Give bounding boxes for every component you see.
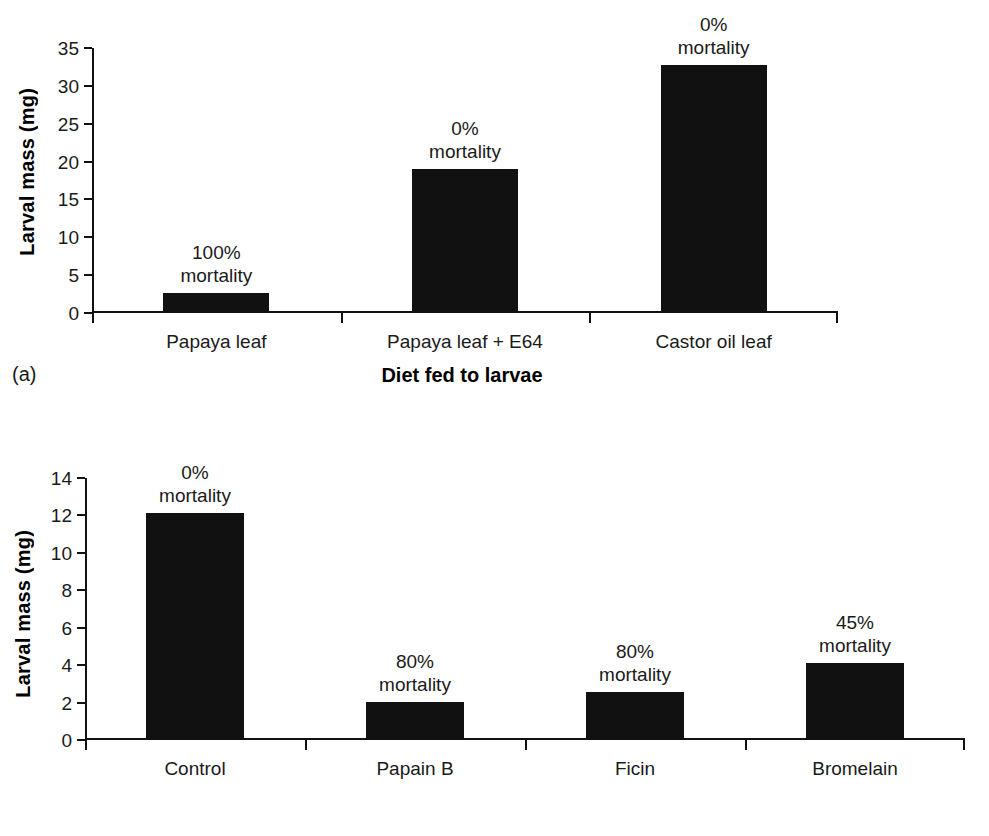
annotation-line: 0% [678,13,750,36]
x-axis-category-label: Control [164,758,225,779]
y-tick-label: 15 [58,190,79,209]
annotation-line: 45% [819,611,891,634]
annotation-line: mortality [180,264,252,287]
x-axis-category-label: Bromelain [812,758,898,779]
x-axis-category-label: Papaya leaf + E64 [387,331,543,352]
y-tick-label: 20 [58,152,79,171]
y-tick-label: 0 [68,304,79,323]
y-tick-mark [84,312,92,314]
x-tick-mark [85,740,87,750]
y-axis-title-b: Larval mass (mg) [12,530,35,698]
x-tick-mark [92,313,94,323]
x-axis-category-label: Papain B [376,758,453,779]
y-tick-label: 5 [68,266,79,285]
y-tick-mark [84,274,92,276]
y-tick-label: 14 [51,469,72,488]
annotation-line: mortality [819,634,891,657]
y-tick-label: 4 [61,656,72,675]
x-tick-mark [305,740,307,750]
bar-value-annotation: 0%mortality [159,461,231,507]
bar-value-annotation: 80%mortality [379,650,451,696]
annotation-line: mortality [159,484,231,507]
annotation-line: mortality [429,140,501,163]
bar [366,702,464,738]
y-tick-label: 0 [61,731,72,750]
y-tick-label: 10 [51,543,72,562]
x-tick-mark [341,313,343,323]
y-tick-mark [77,552,85,554]
y-tick-label: 30 [58,76,79,95]
bar [586,692,684,738]
x-tick-mark [589,313,591,323]
bar [412,169,518,311]
y-tick-label: 25 [58,114,79,133]
y-tick-mark [84,236,92,238]
bar-value-annotation: 80%mortality [599,640,671,686]
y-tick-mark [77,477,85,479]
bar [163,293,269,311]
bar-value-annotation: 100%mortality [180,241,252,287]
panel-a: Larval mass (mg) 05101520253035 Papaya l… [0,0,989,420]
y-tick-mark [77,627,85,629]
x-tick-mark [836,313,838,323]
bar [146,513,244,738]
y-tick-mark [84,161,92,163]
y-tick-mark [77,589,85,591]
x-axis-line-a [92,311,838,313]
figure-container: Larval mass (mg) 05101520253035 Papaya l… [0,0,989,836]
y-tick-label: 2 [61,693,72,712]
bar-value-annotation: 45%mortality [819,611,891,657]
y-tick-mark [84,47,92,49]
panel-b: Larval mass (mg) 02468101214 ControlPapa… [0,420,989,836]
x-tick-mark [745,740,747,750]
annotation-line: 80% [379,650,451,673]
bar-value-annotation: 0%mortality [429,117,501,163]
y-axis-line-a [92,48,94,313]
y-tick-mark [84,85,92,87]
annotation-line: mortality [379,673,451,696]
annotation-line: 0% [429,117,501,140]
y-tick-label: 6 [61,618,72,637]
bar [661,65,767,311]
y-tick-mark [77,739,85,741]
y-tick-mark [77,514,85,516]
x-axis-category-label: Ficin [615,758,655,779]
annotation-line: 100% [180,241,252,264]
x-axis-category-label: Castor oil leaf [656,331,772,352]
y-tick-mark [84,198,92,200]
annotation-line: 0% [159,461,231,484]
x-axis-title-a: Diet fed to larvae [381,364,542,387]
y-tick-mark [77,702,85,704]
x-tick-mark [525,740,527,750]
panel-label-a: (a) [12,363,36,386]
y-tick-label: 8 [61,581,72,600]
x-axis-category-label: Papaya leaf [166,331,266,352]
annotation-line: mortality [678,36,750,59]
y-tick-mark [77,664,85,666]
y-axis-line-b [85,478,87,740]
annotation-line: 80% [599,640,671,663]
x-tick-mark [963,740,965,750]
y-axis-title-a: Larval mass (mg) [16,88,39,256]
bar-value-annotation: 0%mortality [678,13,750,59]
annotation-line: mortality [599,663,671,686]
y-tick-label: 35 [58,39,79,58]
plot-area-a: 05101520253035 Papaya leafPapaya leaf + … [92,48,838,313]
y-tick-label: 10 [58,228,79,247]
y-tick-mark [84,123,92,125]
y-tick-label: 12 [51,506,72,525]
plot-area-b: 02468101214 ControlPapain BFicinBromelai… [85,478,965,740]
bar [806,663,904,738]
